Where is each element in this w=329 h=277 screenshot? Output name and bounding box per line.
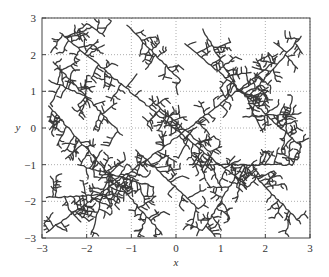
y-tick-label: −1 [24, 159, 36, 171]
y-tick-label: −3 [24, 232, 36, 244]
x-tick-label: 3 [307, 242, 313, 254]
dendrite-chart: −3−2−10123 −3−2−10123 x y [0, 0, 329, 277]
y-tick-labels: −3−2−10123 [24, 12, 36, 244]
x-tick-label: 2 [263, 242, 269, 254]
y-tick-label: −2 [24, 195, 36, 207]
y-tick-label: 1 [31, 85, 37, 97]
y-tick-label: 0 [31, 122, 37, 134]
x-tick-label: −2 [81, 242, 93, 254]
y-axis-label: y [15, 121, 21, 133]
x-tick-label: −3 [36, 242, 48, 254]
y-tick-label: 2 [31, 49, 37, 61]
x-tick-labels: −3−2−10123 [36, 242, 313, 254]
x-axis-label: x [173, 256, 179, 268]
x-tick-label: 0 [173, 242, 179, 254]
y-tick-label: 3 [31, 12, 37, 24]
x-tick-label: 1 [218, 242, 224, 254]
x-tick-label: −1 [125, 242, 137, 254]
